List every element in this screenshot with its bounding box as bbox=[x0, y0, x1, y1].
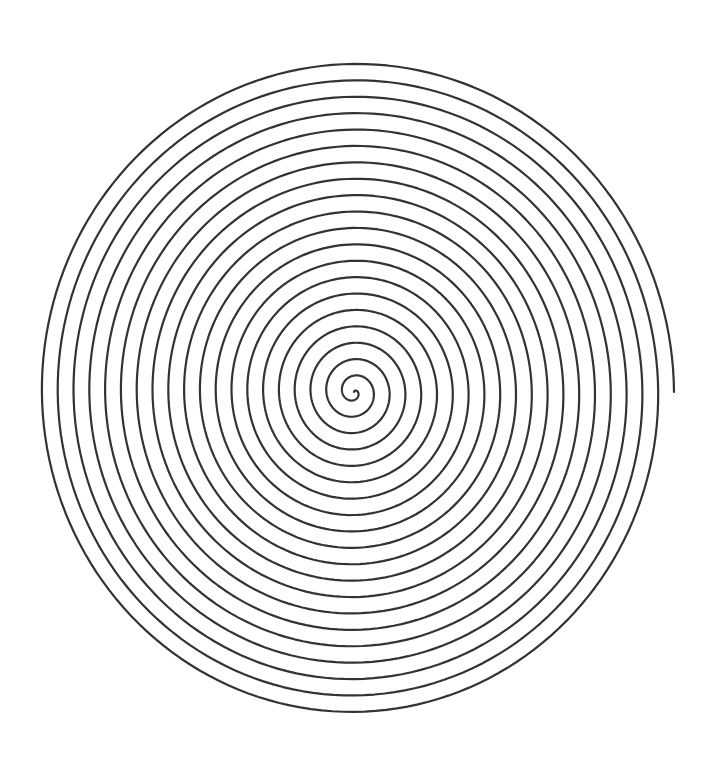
spiral-canvas bbox=[0, 0, 723, 757]
spiral-line bbox=[42, 64, 674, 712]
